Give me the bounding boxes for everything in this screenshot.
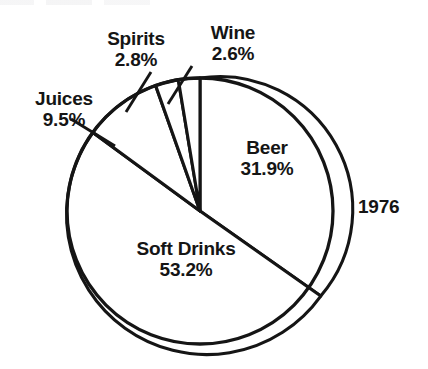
slice-label-soft-drinks-value: 53.2% <box>118 259 254 280</box>
slice-label-wine-name: Wine <box>186 22 280 43</box>
slice-label-soft-drinks-name: Soft Drinks <box>118 238 254 259</box>
slice-label-wine-value: 2.6% <box>186 43 280 64</box>
slice-label-beer-value: 31.9% <box>218 158 316 179</box>
slice-label-juices: Juices 9.5% <box>18 88 110 131</box>
slice-label-spirits-value: 2.8% <box>88 49 184 70</box>
slice-label-wine: Wine 2.6% <box>186 22 280 65</box>
slice-label-spirits: Spirits 2.8% <box>88 28 184 71</box>
pie-chart: Spirits 2.8% Wine 2.6% Juices 9.5% Beer … <box>0 0 428 369</box>
slice-label-juices-name: Juices <box>18 88 110 109</box>
slice-label-soft-drinks: Soft Drinks 53.2% <box>118 238 254 281</box>
slice-label-spirits-name: Spirits <box>88 28 184 49</box>
slice-label-juices-value: 9.5% <box>18 109 110 130</box>
chart-year-annotation: 1976 <box>358 196 422 217</box>
slice-label-beer: Beer 31.9% <box>218 137 316 180</box>
slice-label-beer-name: Beer <box>218 137 316 158</box>
